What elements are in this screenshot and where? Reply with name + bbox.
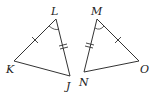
congruent-triangles-diagram: L K J M N O xyxy=(0,0,158,98)
label-m: M xyxy=(90,5,103,18)
tick-mn-1 xyxy=(86,43,94,45)
triangle-mno xyxy=(84,19,139,72)
triangle-lkj xyxy=(14,19,70,76)
label-j: J xyxy=(64,80,71,93)
tick-lj-2 xyxy=(60,47,68,49)
label-n: N xyxy=(78,76,89,89)
label-k: K xyxy=(5,63,15,76)
diagram-canvas: L K J M N O xyxy=(0,0,158,98)
tick-mn-2 xyxy=(85,46,93,48)
label-o: O xyxy=(140,63,149,76)
label-l: L xyxy=(50,5,58,18)
triangle-mno-outline xyxy=(84,19,139,72)
angle-arc-m xyxy=(95,26,104,29)
triangle-lkj-outline xyxy=(14,19,70,76)
